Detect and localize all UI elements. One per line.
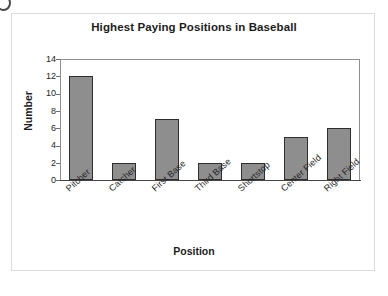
y-tick-label: 0 xyxy=(38,176,56,185)
x-axis-title: Position xyxy=(0,245,388,257)
y-tick-label: 10 xyxy=(38,89,56,98)
y-tick-label: 2 xyxy=(38,159,56,168)
y-tick-mark xyxy=(56,111,60,112)
y-tick-label: 14 xyxy=(38,55,56,64)
y-tick-label: 8 xyxy=(38,107,56,116)
y-tick-mark xyxy=(56,128,60,129)
y-tick-label: 12 xyxy=(38,72,56,81)
y-axis-title: Number xyxy=(22,76,34,146)
chart-title: Highest Paying Positions in Baseball xyxy=(0,21,388,33)
y-tick-mark xyxy=(56,146,60,147)
y-tick-mark xyxy=(56,76,60,77)
y-tick-label: 4 xyxy=(38,141,56,150)
y-tick-mark xyxy=(56,180,60,181)
y-tick-mark xyxy=(56,163,60,164)
y-tick-mark xyxy=(56,94,60,95)
y-tick-label: 6 xyxy=(38,124,56,133)
y-tick-mark xyxy=(56,59,60,60)
scan-artifact-mark xyxy=(0,0,11,11)
bar-pitcher xyxy=(69,76,93,180)
